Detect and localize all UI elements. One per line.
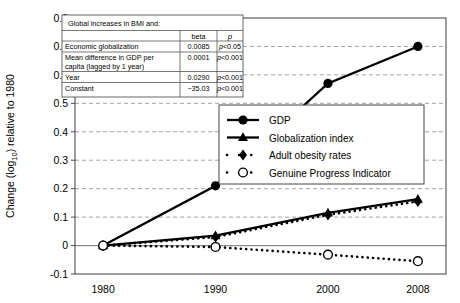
series-line [103,199,418,245]
y-tick-label: -0.1 [50,268,68,280]
table-col-header-p: p [227,32,233,41]
table-cell: Mean difference in GDP per [65,53,154,62]
chart-figure: 0.80.70.60.50.40.30.20.10-0.1Change (log… [0,0,460,303]
table-cell: p<0.001 [216,84,243,93]
table-cell: p<0.05 [218,42,241,51]
open-circle-marker [211,243,220,252]
legend-label: GDP [269,115,291,126]
x-axis: 1980199020002008 [91,283,429,295]
data-series [99,241,423,265]
legend-label: Globalization index [269,133,354,144]
open-circle-marker [324,250,333,259]
table-cell: 0.0085 [188,42,210,51]
statistics-table: Global increases in BMI and:betapEconomi… [62,15,243,97]
x-tick-label: 2008 [406,283,430,295]
x-tick-label: 1990 [204,283,228,295]
series-line [103,201,418,245]
filled-circle-marker [238,115,247,124]
open-circle-marker [413,257,422,266]
x-tick-label: 1980 [91,283,115,295]
table-cell: Year [65,73,80,82]
data-series [99,196,422,251]
y-tick-label: 0.4 [53,126,68,138]
y-axis-title: Change (log10) relative to 1980 [4,74,19,218]
filled-diamond-marker [324,209,332,220]
y-tick-label: 0.1 [53,211,68,223]
table-cell: beta [192,32,206,41]
x-tick-label: 2000 [316,283,340,295]
y-tick-label: 0 [62,239,68,251]
table-cell: Constant [65,84,94,93]
filled-circle-marker [323,79,332,88]
table-cell: 0.0001 [188,53,210,62]
table-cell: capita (lagged by 1 year) [65,62,144,71]
table-cell: Economic globalization [65,42,139,51]
y-tick-label: 0.3 [53,154,68,166]
table-cell: 0.0290 [188,73,210,82]
filled-diamond-marker [212,231,220,242]
y-tick-label: 0.2 [53,182,68,194]
table-cell: −35.03 [187,84,209,93]
chart-svg: 0.80.70.60.50.40.30.20.10-0.1Change (log… [0,0,460,303]
legend-label: Genuine Progress Indicator [269,168,391,179]
y-tick-label: 0.5 [53,97,68,109]
open-circle-marker [99,241,108,250]
filled-circle-marker [413,42,422,51]
table-cell: p<0.001 [216,73,243,82]
chart-legend: GDPGlobalization indexAdult obesity rate… [219,105,424,184]
legend-label: Adult obesity rates [269,150,351,161]
open-circle-marker [239,168,248,177]
table-cell: Global increases in BMI and: [68,19,160,28]
table-cell: p<0.001 [216,53,243,62]
series-line [103,246,418,262]
filled-diamond-marker [414,196,422,207]
